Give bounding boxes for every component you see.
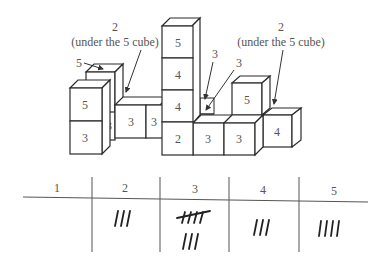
tally-marks-2 <box>115 211 130 226</box>
right-top-cube: 5 <box>232 76 270 115</box>
tally-marks-4 <box>254 220 269 235</box>
right-front-label-2: 3 <box>236 132 242 146</box>
right-note-arrow-icon <box>274 50 283 104</box>
tall-column-label-4: 5 <box>175 36 181 50</box>
right-end-cube-label: 4 <box>274 125 280 139</box>
hidden-label-1: 3 <box>212 47 218 61</box>
left-note-count: 2 <box>112 20 118 34</box>
table-header-1: 1 <box>54 181 60 195</box>
right-note-count: 2 <box>278 20 284 34</box>
right-note-text: (under the 5 cube) <box>237 35 325 49</box>
tall-column-label-2: 4 <box>175 100 181 114</box>
hidden-arrow-1-icon <box>205 62 213 99</box>
table-header-5: 5 <box>331 184 337 198</box>
right-front-label-1: 3 <box>205 132 211 146</box>
table-header-3: 3 <box>192 182 198 196</box>
left-note-text: (under the 5 cube) <box>71 35 159 49</box>
right-end-cube: 4 <box>263 108 301 147</box>
middle-cube-label-2: 3 <box>128 115 134 129</box>
tally-table: 1 2 3 4 5 <box>23 177 368 252</box>
right-top-cube-label: 5 <box>244 93 250 107</box>
hidden-label-2: 3 <box>236 56 242 70</box>
left-note-arrow-icon <box>126 50 141 92</box>
tally-marks-5 <box>319 221 339 236</box>
middle-cube-label-3: 3 <box>151 115 157 129</box>
left-stack-label-top: 5 <box>82 98 88 112</box>
tall-column-label-3: 4 <box>175 68 181 82</box>
table-header-2: 2 <box>122 181 128 195</box>
back-top-label: 5 <box>76 56 82 70</box>
hidden-pocket <box>200 98 214 114</box>
right-front-row-cubes: 3 3 <box>193 115 263 155</box>
table-header-4: 4 <box>260 183 266 197</box>
tall-column-label-1: 2 <box>175 132 181 146</box>
cube-diagram-with-tally-table: 3 3 3 5 3 5 4 3 3 <box>0 0 385 265</box>
left-stack-label-bottom: 3 <box>82 131 88 145</box>
tally-marks-3 <box>177 211 210 249</box>
left-stack-cubes: 5 3 <box>70 80 110 154</box>
